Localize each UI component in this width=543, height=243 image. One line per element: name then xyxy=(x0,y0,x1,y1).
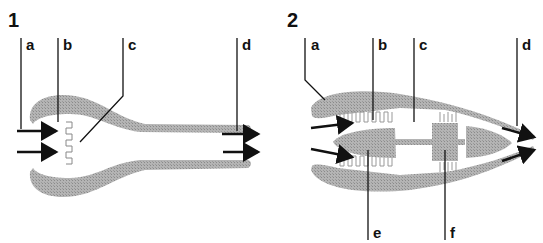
ramjet-upper-wall xyxy=(30,95,251,133)
label-2e: e xyxy=(373,224,381,241)
fuel-injector-grid xyxy=(66,122,72,164)
label-1c: c xyxy=(128,36,136,53)
label-2f: f xyxy=(450,224,456,241)
compressor-hub xyxy=(333,128,396,158)
label-2b: b xyxy=(378,36,387,53)
figure-2-turbojet: 2 a b c d e xyxy=(287,9,535,241)
figure-number-2: 2 xyxy=(287,9,298,31)
figure-number-1: 1 xyxy=(8,9,19,31)
exhaust-cone xyxy=(466,126,512,158)
compressor-blades-upper xyxy=(340,112,392,122)
intake-arrow-top xyxy=(311,123,352,128)
exhaust-arrow-bottom xyxy=(502,150,534,161)
turbojet-lower-nacelle xyxy=(311,146,535,192)
figure-1-ramjet: 1 a b c d xyxy=(8,9,258,197)
turbojet-upper-nacelle xyxy=(311,91,535,140)
label-1b: b xyxy=(63,36,72,53)
label-2c: c xyxy=(419,36,427,53)
turbine-blades-upper xyxy=(440,112,456,122)
engine-diagrams: 1 a b c d 2 xyxy=(0,0,543,243)
ramjet-lower-wall xyxy=(30,160,251,197)
label-1a: a xyxy=(26,36,35,53)
label-2d: d xyxy=(522,36,531,53)
label-2a: a xyxy=(311,36,320,53)
label-1d: d xyxy=(242,36,251,53)
